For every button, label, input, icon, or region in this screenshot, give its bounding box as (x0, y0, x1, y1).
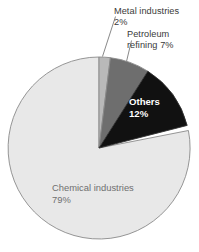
slice-label-chemical-industries: Chemical industries 79% (52, 182, 134, 205)
callout-petroleum-refining-label: Petroleum (127, 29, 169, 39)
callout-petroleum-refining-value: refining 7% (127, 40, 174, 51)
callout-metal-industries: Metal industries 2% (114, 6, 179, 28)
callout-metal-industries-value: 2% (114, 17, 179, 28)
slice-label-chemical-industries-value: 79% (52, 194, 134, 206)
callout-metal-industries-label: Metal industries (114, 6, 179, 16)
slice-label-chemical-industries-name: Chemical industries (52, 182, 134, 193)
slice-label-others-name: Others (129, 96, 160, 107)
callout-petroleum-refining: Petroleum refining 7% (127, 29, 174, 51)
slice-label-others: Others 12% (129, 96, 160, 119)
pie-chart: Metal industries 2% Petroleum refining 7… (0, 0, 199, 252)
slice-label-others-value: 12% (129, 108, 160, 120)
